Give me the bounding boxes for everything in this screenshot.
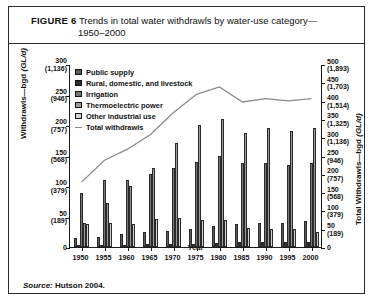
y-tick-right [321,248,325,249]
y-axis-tick-label-right: 0 [327,244,331,252]
y-axis-tick-label-right: 400(1,514) [327,94,349,109]
y-tick-right [321,120,325,121]
y-axis-tick-label-left: 250(946) [51,88,67,103]
y-tick-right [321,193,325,194]
legend-line-swatch [75,127,82,128]
y-axis-tick-label-right: 300(1,136) [327,131,349,146]
y-axis-tick-label-right: 500(1,893) [327,58,349,73]
x-axis-tick-label: 2000 [296,253,326,262]
x-tick [151,247,152,251]
legend-item-1: Rural, domestic, and livestock [75,78,192,88]
source-prefix: Source: [23,281,53,290]
legend-item-0: Public supply [75,67,192,77]
y-tick-right [321,157,325,158]
chart-legend: Public supplyRural, domestic, and livest… [75,67,192,133]
y-tick-right [321,65,325,66]
figure-title-row: FIGURE 6 Trends in total water withdrawl… [31,15,351,27]
source-note: Source: Hutson 2004. [23,281,105,290]
x-tick [128,247,129,251]
y-axis-title-left: Withdrawls—bgd (GL/d) [19,48,28,139]
figure-card: FIGURE 6 Trends in total water withdrawl… [8,6,365,294]
legend-item-4: Other industrial use [75,111,192,121]
y-tick-right [321,230,325,231]
y-tick-right [321,211,325,212]
legend-label: Total withdrawls [86,123,143,132]
y-axis-tick-label-right: 100(379) [327,204,343,219]
figure-label: FIGURE 6 [31,15,76,26]
figure-title-subline: 1950–2000 [78,27,351,39]
title-divider [9,43,364,44]
legend-color-swatch [75,102,82,108]
legend-label: Rural, domestic, and livestock [86,79,192,88]
legend-item-5: Total withdrawls [75,122,192,132]
y-tick-right [321,175,325,176]
legend-color-swatch [75,69,82,75]
source-value: Hutson 2004. [53,281,105,290]
y-axis-tick-label-left: 300(1,136) [45,57,67,72]
y-axis-tick-label-right: 200(757) [327,167,343,182]
x-tick [243,247,244,251]
legend-label: Irrigation [86,90,118,99]
y-axis-tick-label-left: 150(568) [51,149,67,164]
y-axis-tick-label-right: 450(1,703) [327,76,349,91]
y-tick-right [321,102,325,103]
legend-item-2: Irrigation [75,89,192,99]
legend-item-3: Thermoelectric power [75,100,192,110]
y-axis-tick-label-left: 0 [63,244,67,252]
y-axis-tick-label-right: 350(1,325) [327,112,349,127]
x-tick [105,247,106,251]
legend-label: Thermoelectric power [86,101,163,110]
y-axis-tick-label-right: 50(189) [327,222,343,237]
y-axis-tick-label-right: 250(946) [327,149,343,164]
x-tick [289,247,290,251]
y-axis-tick-label-left: 200(757) [51,118,67,133]
legend-color-swatch [75,91,82,97]
y-tick-right [321,138,325,139]
x-tick [220,247,221,251]
x-tick [312,247,313,251]
legend-color-swatch [75,113,82,119]
x-tick [197,247,198,251]
x-tick [266,247,267,251]
y-axis-tick-label-left: 50(189) [51,210,67,225]
x-tick [174,247,175,251]
y-axis-tick-label-right: 150(568) [327,186,343,201]
y-tick-right [321,83,325,84]
x-tick [82,247,83,251]
figure-title-block: FIGURE 6 Trends in total water withdrawl… [31,15,351,39]
y-axis-tick-label-left: 100(379) [51,179,67,194]
chart-plot-area: Withdrawls—bgd (GL/d) Total Withdrawls—b… [9,47,364,252]
figure-title: Trends in total water withdrawls by wate… [79,15,317,26]
legend-label: Other industrial use [86,112,156,121]
y-axis-title-right: Total Withdrawls—bgd (GL/d) [354,113,363,225]
legend-color-swatch [75,80,82,86]
legend-label: Public supply [86,68,134,77]
